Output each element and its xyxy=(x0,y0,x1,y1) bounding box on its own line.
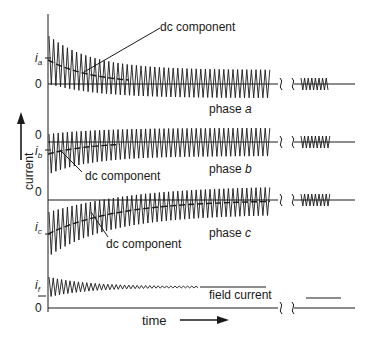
phase-a-symbol: ia xyxy=(35,52,42,69)
current-arrow-head xyxy=(17,112,25,124)
phase-a-right-waveform xyxy=(301,78,328,90)
phase-a-label: phase a xyxy=(209,103,252,115)
field-current-label: field current xyxy=(209,289,272,301)
phase-b-break-left xyxy=(280,136,282,148)
field-break-left xyxy=(280,302,282,314)
phase-a-break-right xyxy=(292,78,294,90)
phase-a-break-left xyxy=(280,78,282,90)
phase-c-zero-label: 0 xyxy=(35,186,42,198)
field-break-right xyxy=(292,302,294,314)
phase-b-label: phase b xyxy=(209,163,252,175)
phase-a-dc-leader xyxy=(84,28,160,72)
phase-c-label: phase c xyxy=(209,227,251,239)
field-symbol: if xyxy=(35,279,40,296)
phase-b-dc-label: dc component xyxy=(85,170,160,182)
phase-a-dc-label: dc component xyxy=(160,21,235,33)
phase-c-dc-label: dc component xyxy=(106,238,181,250)
field-zero-label: 0 xyxy=(35,302,42,314)
phase-a-zero-label: 0 xyxy=(35,78,42,90)
diagram-canvas xyxy=(0,0,375,338)
phase-c-break-right xyxy=(292,194,294,206)
phase-c-symbol: ic xyxy=(35,221,42,238)
phase-b-zero-label: 0 xyxy=(35,129,42,141)
time-arrow-head xyxy=(217,316,229,324)
field-waveform xyxy=(49,277,198,297)
phase-b-symbol: ib xyxy=(35,145,42,162)
y-axis-label: current xyxy=(22,153,36,190)
phase-b-break-right xyxy=(292,136,294,148)
phase-c-break-left xyxy=(280,194,282,206)
phase-a-waveform xyxy=(49,36,270,98)
x-axis-label: time xyxy=(142,315,167,327)
